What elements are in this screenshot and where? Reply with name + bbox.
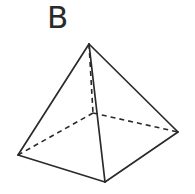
hidden-edges [18,44,178,155]
edge-apex-base_right [89,44,178,132]
edge-base_front-base_right [105,132,178,182]
edge-base_left-base_front [18,155,105,182]
hidden-edge-base_back-base_left [18,113,93,155]
hidden-edge-base_back-base_right [93,113,178,132]
visible-edges [18,44,178,182]
pyramid-diagram [0,0,195,194]
edge-apex-base_left [18,44,89,155]
